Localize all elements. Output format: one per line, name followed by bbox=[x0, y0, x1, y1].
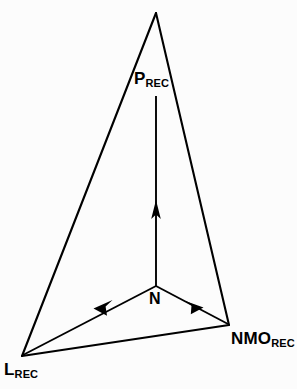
vector-diagram-figure: PREC LREC NMOREC N bbox=[0, 0, 297, 389]
label-nmo-rec-base: NMO bbox=[231, 329, 271, 348]
triangle-edge-left bbox=[22, 13, 156, 356]
arrow-n-to-l-rec bbox=[23, 286, 156, 355]
label-l-rec-base: L bbox=[4, 360, 15, 379]
label-nmo-rec-subscript: REC bbox=[271, 337, 295, 349]
label-l-rec-subscript: REC bbox=[15, 368, 39, 380]
triangle-outline bbox=[22, 13, 229, 356]
label-nmo-rec: NMOREC bbox=[231, 330, 295, 347]
triangle-edge-bottom bbox=[22, 325, 229, 356]
label-p-rec-base: P bbox=[134, 69, 146, 88]
label-l-rec: LREC bbox=[4, 361, 38, 378]
label-p-rec-subscript: REC bbox=[146, 77, 170, 89]
arrow-n-to-l-rec-head bbox=[94, 300, 113, 316]
arrow-n-to-nmo-rec bbox=[156, 286, 228, 324]
triangle-edge-right bbox=[156, 13, 229, 325]
label-n: N bbox=[149, 291, 161, 307]
label-p-rec: PREC bbox=[134, 70, 169, 87]
arrow-n-to-p-rec bbox=[151, 96, 161, 286]
label-n-base: N bbox=[149, 290, 161, 307]
arrow-n-to-l-rec-shaft bbox=[23, 286, 156, 355]
